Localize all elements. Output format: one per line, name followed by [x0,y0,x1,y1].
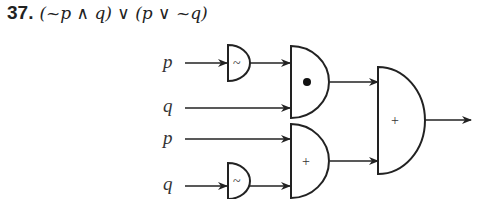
or-symbol-lower: + [302,154,310,169]
input-label-p-1: p [161,51,173,72]
input-label-q-2: q [163,173,173,194]
input-label-q-1: q [163,95,173,116]
or-gate-final [378,67,425,174]
not-symbol-bottom: ~ [233,174,241,189]
not-symbol-top: ~ [233,56,241,71]
and-dot-icon [303,78,311,86]
or-gate-lower [291,124,329,198]
logic-circuit-diagram: p q p q ~ + ~ + [0,0,482,199]
or-symbol-final: + [391,113,399,128]
input-label-p-2: p [161,127,173,148]
